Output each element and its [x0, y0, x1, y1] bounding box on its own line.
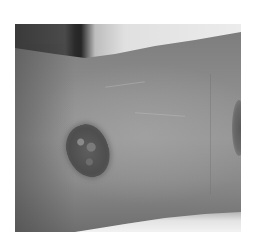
skin-crease: [210, 74, 211, 194]
clinical-photo: [15, 24, 241, 232]
skin-lesion-secondary: [232, 100, 241, 156]
